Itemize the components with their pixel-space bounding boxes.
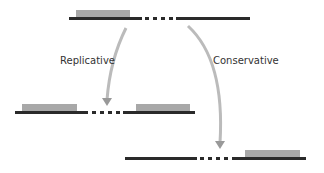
transposon-block [245,150,300,158]
transposon-block [136,104,190,112]
transposon-block [22,104,77,112]
replicative-product [15,104,195,114]
transposon-block [76,10,130,18]
conservative-label: Conservative [213,55,279,66]
diagram-graphic [0,0,324,173]
conservative-product [125,150,306,160]
replicative-label: Replicative [60,55,115,66]
original-dna [69,10,250,20]
conservative-arrow [188,26,225,149]
transposition-diagram: Replicative Conservative [0,0,324,173]
replicative-arrow [102,28,126,106]
